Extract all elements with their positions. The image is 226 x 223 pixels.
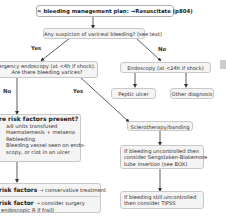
side-tab-marker [220, 60, 226, 69]
peptic-ulcer-text: Peptic ulcer [118, 91, 148, 97]
outcome-frail-row: endoscopic R if frail) [0, 207, 100, 214]
outcome-box: risk factors → conservative treatment ri… [0, 183, 101, 213]
yes-label: Yes [31, 45, 41, 51]
risk-factor-item: ≥6 units transfused [0, 123, 80, 130]
title-box: ≈ bleeding management plan: →Resuscitate… [36, 5, 174, 17]
title-text: ≈ bleeding management plan: →Resuscitate… [37, 8, 193, 14]
varices-no-label: No [3, 88, 11, 94]
varices-yes-label: Yes [73, 88, 83, 94]
risk-factors-box: re risk factors present? ≥6 units transf… [0, 114, 81, 162]
uncontrolled-line3: tube insertion (see BOX) [124, 161, 203, 167]
uncontrolled-box: If bleeding uncontrolled then consider S… [120, 145, 204, 169]
outcome-no-risk-row: risk factors → conservative treatment [0, 186, 100, 197]
uncontrolled-line2: consider Sengstaken-Blakemore [124, 154, 203, 160]
other-diagnosis-box: Other diagnosis [170, 88, 214, 99]
other-diagnosis-text: Other diagnosis [172, 91, 213, 97]
risk-factor-item: Bleeding vessel seen on endo- [0, 142, 80, 149]
no-label: No [158, 46, 166, 52]
outcome-risk-bold: risk factor [0, 199, 34, 206]
peptic-ulcer-box: Peptic ulcer [111, 88, 156, 99]
outcome-risk-rest: → consider surgery [34, 200, 85, 206]
emergency-line2: Are there bleeding varices? [0, 69, 97, 75]
emergency-endoscopy-box: ergency endoscopy (at <4h if shock). Are… [0, 61, 98, 78]
risk-factor-item: Rebleeding [0, 136, 80, 143]
sclerotherapy-box: Sclerotherapy/banding [127, 121, 193, 131]
endoscopy-box: Endoscopy (at <24h if shock) [120, 62, 211, 73]
question-text: Any suspicion of variceal bleeding? (see… [44, 31, 162, 37]
still-uncontrolled-box: If bleeding still uncontrolled then cons… [120, 191, 204, 209]
risk-factors-title: re risk factors present? [0, 116, 80, 123]
risk-factor-item: Haematemesis + melaena [0, 129, 80, 136]
question-box: Any suspicion of variceal bleeding? (see… [43, 28, 145, 39]
outcome-no-risk-bold: risk factors [0, 186, 37, 193]
outcome-no-risk-rest: → conservative treatment [37, 187, 106, 193]
risk-factor-item: scopy, or clot in an ulcer [0, 149, 80, 156]
outcome-risk-row: risk factor → consider surgery [0, 199, 100, 207]
still-uncontrolled-line2: then consider TIPSS [124, 200, 203, 206]
endoscopy-text: Endoscopy (at <24h if shock) [127, 65, 204, 71]
sclerotherapy-text: Sclerotherapy/banding [131, 124, 190, 130]
